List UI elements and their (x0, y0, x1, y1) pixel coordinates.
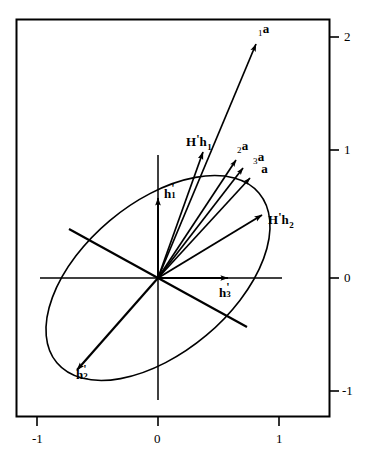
label-vector-1a: 1a (258, 22, 269, 38)
vector-Hh2 (158, 215, 262, 278)
label-h3-stack: '3 (226, 284, 232, 297)
label-vector-2a: 2a (237, 139, 248, 155)
vector-1a (158, 44, 256, 278)
label-h3-base: h (219, 285, 226, 300)
label-h1-base: h (164, 186, 171, 201)
label-vector-h2-prime: h'2 (76, 366, 89, 381)
label-vector-h3-prime: h'3 (219, 284, 232, 299)
label-Hh2-H: H (268, 212, 278, 227)
label-4a-base: a (261, 161, 268, 176)
y-tick-label-neg1: -1 (342, 384, 353, 397)
label-h1-stack: '1 (171, 185, 177, 198)
y-tick-label-0: 0 (344, 271, 351, 284)
x-axis-ticks (37, 417, 279, 427)
label-vector-4a: a (261, 162, 268, 178)
x-tick-label-neg1: -1 (32, 432, 43, 445)
label-Hh1-sub: 1 (207, 142, 212, 152)
label-h1-sub: 1 (171, 191, 176, 200)
y-tick-label-2: 2 (344, 30, 351, 43)
label-Hh2-h: h (281, 212, 288, 227)
label-Hh1-h: h (199, 134, 206, 149)
figure-root: 1a H'h1 2a 3a a H'h2 h'1 h'2 h'3 -1 0 1 … (0, 0, 372, 469)
y-axis-ticks (330, 37, 340, 391)
label-1a-base: a (263, 21, 270, 36)
y-tick-label-1: 1 (344, 143, 351, 156)
x-tick-label-0: 0 (154, 432, 161, 445)
label-vector-Hh1: H'h1 (186, 133, 212, 152)
label-h2-stack: '2 (83, 366, 89, 379)
label-h3-sub: 3 (226, 290, 231, 299)
label-h2-sub: 2 (83, 372, 88, 381)
vector-Hh1 (158, 152, 203, 278)
x-tick-label-1: 1 (276, 432, 283, 445)
label-vector-h1-prime: h'1 (164, 185, 177, 200)
vector-h2-prime (77, 278, 158, 370)
label-vector-Hh2: H'h2 (268, 211, 294, 230)
label-2a-base: a (242, 138, 249, 153)
label-Hh1-H: H (186, 134, 196, 149)
label-h2-base: h (76, 367, 83, 382)
plot-canvas (0, 0, 372, 469)
label-Hh2-sub: 2 (289, 220, 294, 230)
